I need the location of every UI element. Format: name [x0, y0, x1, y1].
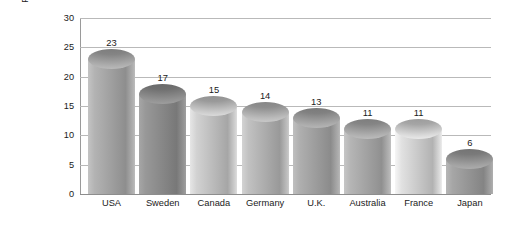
bar-cap	[88, 49, 135, 69]
bar-fill	[242, 112, 289, 194]
bar-value-label: 13	[293, 96, 340, 107]
bar-value-label: 11	[395, 107, 442, 118]
bar-usa[interactable]: 23	[88, 18, 135, 194]
bar-chart: Percentage of single-parent families wit…	[0, 0, 514, 232]
bar-france[interactable]: 11	[395, 18, 442, 194]
x-axis-labels: USASwedenCanadaGermanyU.K.AustraliaFranc…	[80, 198, 491, 218]
bars: 231715141311116	[80, 18, 491, 194]
y-tick-label: 25	[64, 42, 74, 52]
y-tick-label: 30	[64, 13, 74, 23]
bar-value-label: 14	[242, 90, 289, 101]
y-tick-label: 10	[64, 130, 74, 140]
bar-cap	[242, 102, 289, 122]
y-tick-label: 20	[64, 72, 74, 82]
bar-body	[190, 106, 237, 194]
plot-area: 051015202530 231715141311116	[80, 18, 491, 194]
bar-fill	[344, 129, 391, 194]
bar-fill	[88, 59, 135, 194]
bar-value-label: 11	[344, 107, 391, 118]
bar-body	[395, 129, 442, 194]
bar-body	[293, 118, 340, 194]
bar-body	[344, 129, 391, 194]
bar-value-label: 6	[446, 137, 493, 148]
bar-fill	[293, 118, 340, 194]
bar-value-label: 23	[88, 37, 135, 48]
y-axis-title: Percentage of single-parent families wit…	[16, 0, 46, 30]
bar-cap	[446, 149, 493, 169]
bar-fill	[395, 129, 442, 194]
bar-fill	[190, 106, 237, 194]
bar-value-label: 17	[139, 72, 186, 83]
bar-body	[88, 59, 135, 194]
bar-body	[446, 159, 493, 194]
y-axis-title-text: Percentage of single-parent families wit…	[20, 0, 41, 30]
bar-sweden[interactable]: 17	[139, 18, 186, 194]
bar-cap	[293, 108, 340, 128]
bar-u-k[interactable]: 13	[293, 18, 340, 194]
bar-body	[139, 94, 186, 194]
bar-japan[interactable]: 6	[446, 18, 493, 194]
bar-fill	[139, 94, 186, 194]
gridline-0	[80, 194, 491, 195]
bar-body	[242, 112, 289, 194]
y-tick-label: 5	[69, 160, 74, 170]
y-tick-label: 15	[64, 101, 74, 111]
bar-value-label: 15	[190, 84, 237, 95]
bar-canada[interactable]: 15	[190, 18, 237, 194]
bar-germany[interactable]: 14	[242, 18, 289, 194]
bar-australia[interactable]: 11	[344, 18, 391, 194]
x-tick-label-japan: Japan	[432, 198, 507, 208]
